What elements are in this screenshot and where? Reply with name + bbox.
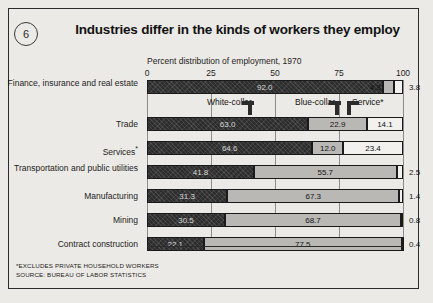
segment-blue-collar: 67.3 [227, 189, 399, 203]
segment-service [401, 213, 403, 227]
x-tick-label: 25 [206, 68, 215, 78]
segment-service: 14.1 [367, 117, 403, 131]
category-label: Transportation and public utilities [0, 164, 138, 174]
segment-service [397, 165, 403, 179]
segment-white-collar: 22.1 [147, 237, 204, 251]
x-tick-label: 50 [270, 68, 279, 78]
bar-row: Contract construction22.177.50.4 [147, 237, 403, 251]
segment-blue-collar: 68.7 [225, 213, 401, 227]
footnote-excludes: *EXCLUDES PRIVATE HOUSEHOLD WORKERS [16, 262, 159, 271]
segment-service [394, 80, 404, 94]
category-label: Services* [0, 144, 138, 157]
segment-blue-collar [383, 80, 394, 94]
segment-blue-collar: 12.0 [312, 141, 343, 155]
segment-service: 23.4 [343, 141, 403, 155]
figure-number-badge: 6 [14, 22, 38, 46]
value-label-service: 0.4 [409, 237, 420, 251]
segment-white-collar: 64.6 [147, 141, 312, 155]
x-tick-label: 0 [145, 68, 150, 78]
bar-row: Manufacturing31.367.31.4 [147, 189, 403, 203]
x-axis-caption: Percent distribution of employment, 1970 [147, 56, 302, 66]
segment-white-collar: 31.3 [147, 189, 227, 203]
bar-row: Trade63.022.914.1 [147, 117, 403, 131]
legend-leader-vertical [335, 101, 339, 115]
value-label-service: 0.8 [409, 213, 420, 227]
footnote-source: SOURCE: BUREAU OF LABOR STATISTICS [16, 271, 159, 280]
axis-bottom-rule [147, 246, 403, 247]
category-label: Contract construction [0, 240, 138, 250]
segment-blue-collar: 22.9 [308, 117, 367, 131]
page-title: Industries differ in the kinds of worker… [60, 22, 415, 37]
bar-row: Finance, insurance and real estate92.04.… [147, 80, 403, 94]
segment-service [402, 237, 404, 251]
figure-number: 6 [23, 28, 29, 40]
bar-row: Transportation and public utilities41.85… [147, 165, 403, 179]
category-label: Trade [0, 120, 138, 130]
segment-white-collar: 92.0 [147, 80, 383, 94]
legend: White-collarBlue-collarService* [147, 97, 417, 111]
category-label: Manufacturing [0, 192, 138, 202]
value-label-service: 2.5 [409, 165, 420, 179]
segment-white-collar: 63.0 [147, 117, 308, 131]
value-label-blue-collar: 4.3 [370, 80, 381, 94]
chart-page: 6 Industries differ in the kinds of work… [0, 0, 433, 303]
segment-blue-collar: 55.7 [254, 165, 397, 179]
legend-leader-vertical [347, 101, 351, 115]
x-tick-label: 75 [334, 68, 343, 78]
category-label: Finance, insurance and real estate [0, 79, 138, 89]
value-label-service: 1.4 [409, 189, 420, 203]
segment-white-collar: 30.5 [147, 213, 225, 227]
segment-blue-collar: 77.5 [204, 237, 402, 251]
x-tick-label: 100 [396, 68, 410, 78]
bar-row: Mining30.568.70.8 [147, 213, 403, 227]
segment-service [399, 189, 403, 203]
legend-leader-vertical [248, 101, 252, 115]
footnotes: *EXCLUDES PRIVATE HOUSEHOLD WORKERS SOUR… [16, 262, 159, 279]
segment-white-collar: 41.8 [147, 165, 254, 179]
x-axis-tick-labels: 0255075100 [147, 68, 403, 79]
bar-row: Services*64.612.023.4 [147, 141, 403, 155]
value-label-service: 3.8 [409, 80, 420, 94]
category-label: Mining [0, 216, 138, 226]
